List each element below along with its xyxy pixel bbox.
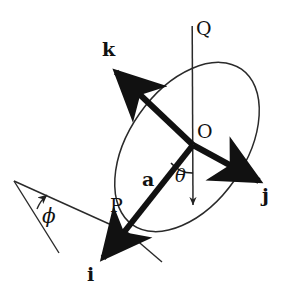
phi-wedge-extension-line [127,232,162,262]
vector-diagram-figure: k j i a O P Q θ ϕ [0,0,284,292]
label-a: a [142,170,154,189]
label-theta: θ [175,167,186,185]
axis-i-line [103,236,121,258]
label-q: Q [196,19,212,38]
axis-j-line [193,145,259,181]
label-point-p: P [110,196,123,215]
label-k: k [102,40,115,59]
great-circle-ellipse [85,36,284,258]
vector-a-line [121,145,193,236]
diagram-canvas [0,0,284,292]
label-j: j [262,186,269,205]
label-i: i [87,265,94,284]
label-origin-o: O [197,122,213,141]
q-reference-line [192,26,193,205]
label-phi: ϕ [42,206,56,226]
